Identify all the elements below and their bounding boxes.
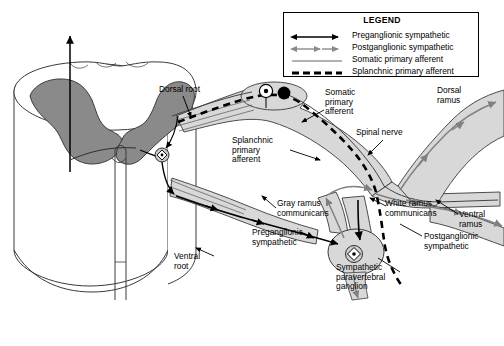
label-postganglionic-sympathetic: Postganglionic sympathetic: [424, 232, 504, 251]
legend-row-preganglionic: Preganglionic sympathetic: [290, 29, 476, 41]
label-dorsal-ramus: Dorsal ramus: [437, 86, 485, 105]
label-splanchnic-primary-afferent: Splanchnic primary afferent: [232, 136, 292, 165]
legend-swatch-preganglionic: [290, 29, 348, 41]
label-somatic-primary-afferent: Somatic primary afferent: [325, 88, 381, 117]
legend-swatch-somatic: [290, 53, 348, 65]
label-sympathetic-paravertebral-ganglion: Sympathetic paravertebral ganglion: [336, 263, 412, 292]
label-ventral-ramus: Ventral ramus: [459, 210, 504, 229]
label-dorsal-root: Dorsal root: [159, 85, 225, 95]
legend-label-somatic: Somatic primary afferent: [352, 54, 443, 64]
label-gray-ramus-communicans: Gray ramus communicans: [277, 199, 349, 218]
legend-row-somatic: Somatic primary afferent: [290, 53, 476, 65]
legend-label-splanchnic: Splanchnic primary afferent: [352, 66, 454, 76]
label-ventral-root: Ventral root: [174, 252, 218, 271]
label-white-ramus-communicans: White ramus communicans: [385, 199, 459, 218]
legend-row-splanchnic: Splanchnic primary afferent: [290, 65, 476, 77]
legend-box: LEGEND Preganglionic sympathetic: [283, 12, 479, 77]
dorsal-root-ganglion-cell-body: [278, 87, 291, 100]
legend-swatch-splanchnic: [290, 65, 348, 77]
legend-title: LEGEND: [284, 15, 480, 25]
diagram-canvas: Dorsal root Somatic primary afferent Dor…: [0, 0, 504, 346]
legend-label-preganglionic: Preganglionic sympathetic: [352, 30, 450, 40]
label-spinal-nerve: Spinal nerve: [356, 128, 426, 138]
legend-swatch-postganglionic: [290, 41, 348, 53]
legend-label-postganglionic: Postganglionic sympathetic: [352, 42, 454, 52]
legend-row-postganglionic: Postganglionic sympathetic: [290, 41, 476, 53]
label-preganglionic-sympathetic: Preganglionic sympathetic: [252, 228, 328, 247]
